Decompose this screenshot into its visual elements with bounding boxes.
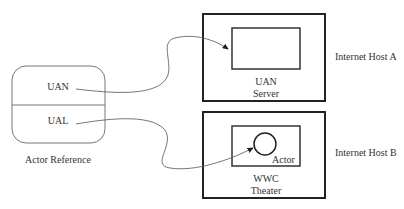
uan-server-inner-box: [232, 28, 300, 69]
uan-server-label-2: Server: [253, 88, 280, 99]
diagram-canvas: UAN UAL Actor Reference UAN Server Inter…: [0, 0, 404, 209]
wwc-theater-label-1: WWC: [253, 173, 279, 184]
internet-host-a-label: Internet Host A: [335, 51, 397, 62]
uan-field: UAN: [47, 81, 69, 92]
actor-label: Actor: [272, 154, 295, 165]
ual-field: UAL: [48, 115, 69, 126]
actor-circle-icon: [254, 133, 276, 155]
internet-host-b-label: Internet Host B: [335, 147, 397, 158]
actor-reference-caption: Actor Reference: [25, 154, 91, 165]
internet-host-a: UAN Server: [203, 14, 325, 101]
internet-host-b: Actor WWC Theater: [203, 112, 325, 198]
wwc-theater-label-2: Theater: [251, 185, 282, 196]
uan-server-label-1: UAN: [255, 76, 277, 87]
actor-reference-box: UAN UAL: [12, 66, 105, 143]
